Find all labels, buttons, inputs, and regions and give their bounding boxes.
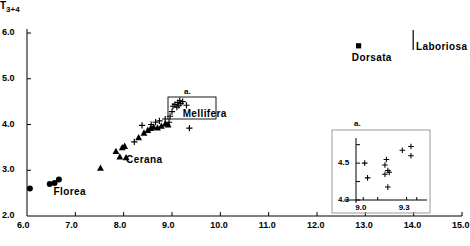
inset-data-point — [365, 175, 371, 181]
x-axis-tick-label: 9.0 — [162, 220, 175, 230]
x-axis-tick-label: 7.0 — [65, 220, 78, 230]
inset-y-tick-label: 4.3 — [338, 195, 349, 204]
inset-panel-label: a. — [354, 119, 361, 128]
data-point-mellifera — [139, 122, 145, 128]
data-point-cerana — [116, 153, 123, 159]
y-axis-tick-label: 6.0 — [2, 27, 15, 37]
species-label-mellifera: Mellifera — [183, 108, 227, 119]
y-axis-tick-label: 4.0 — [2, 119, 15, 129]
y-axis-tick-label: 5.0 — [2, 73, 15, 83]
inset-data-point — [382, 162, 388, 168]
x-axis-tick-label: 13.0 — [355, 220, 373, 230]
inset-x-tick-label: 9.0 — [355, 203, 366, 212]
x-axis-tick-label: 12.0 — [307, 220, 325, 230]
inset-data-point — [384, 157, 390, 163]
data-point-cerana — [97, 165, 104, 171]
inset-data-point — [408, 153, 414, 159]
x-axis-tick-label: 8.0 — [114, 220, 127, 230]
x-axis-tick-label: 14.0 — [404, 220, 422, 230]
y-axis-tick-label: 3.0 — [2, 164, 15, 174]
species-label-dorsata: Dorsata — [352, 52, 392, 63]
inset-data-point — [399, 147, 405, 153]
x-axis-tick-label: 15.0 — [452, 220, 470, 230]
callout-box-a-label: a. — [184, 87, 191, 96]
species-label-laboriosa: Laboriosa — [416, 41, 467, 52]
x-axis-tick-label: 6.0 — [17, 220, 30, 230]
species-label-florea: Florea — [54, 186, 86, 197]
inset-data-point — [362, 160, 368, 166]
inset-data-point — [408, 144, 414, 150]
y-axis-tick-label: 2.0 — [2, 210, 15, 220]
inset-y-tick-label: 4.5 — [338, 158, 349, 167]
x-axis-tick-label: 11.0 — [259, 220, 276, 230]
data-point-florea — [27, 186, 33, 192]
data-point-florea — [56, 176, 62, 182]
species-label-cerana: Cerana — [126, 154, 162, 165]
data-point-dorsata — [356, 43, 361, 48]
inset-x-tick-label: 9.3 — [399, 203, 410, 212]
x-axis-tick-label: 10.0 — [210, 220, 228, 230]
data-point-mellifera — [162, 116, 168, 122]
data-point-mellifera — [186, 125, 192, 131]
inset-data-point — [385, 184, 391, 190]
data-point-cerana — [113, 148, 120, 154]
